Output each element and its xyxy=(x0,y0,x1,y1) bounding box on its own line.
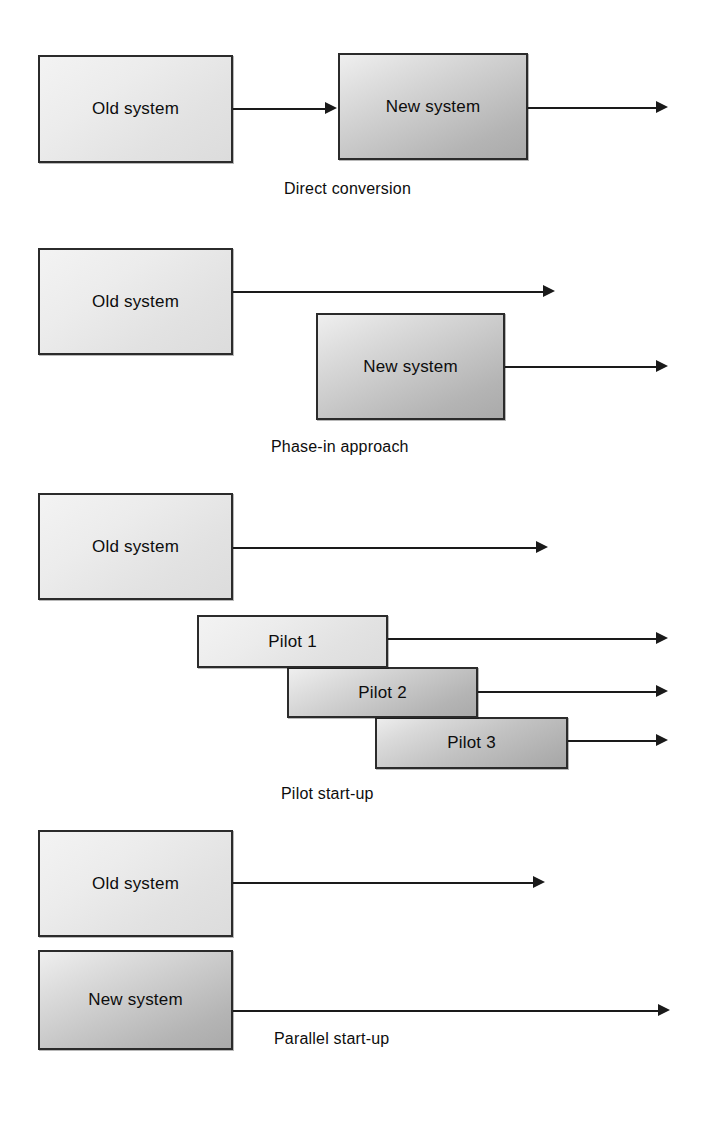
box-label: Pilot 3 xyxy=(447,733,496,753)
box-label: Old system xyxy=(92,292,179,312)
box-label: Pilot 1 xyxy=(268,632,317,652)
box-old-system-phasein: Old system xyxy=(38,248,233,355)
box-pilot-1: Pilot 1 xyxy=(197,615,388,668)
arrow-line-old-forward-parallel xyxy=(233,882,533,884)
arrow-head-new-forward-parallel xyxy=(658,1004,670,1016)
arrow-head-pilot-1 xyxy=(656,632,668,644)
caption-pilot-start-up: Pilot start-up xyxy=(281,785,374,803)
box-pilot-3: Pilot 3 xyxy=(375,717,568,769)
box-label: New system xyxy=(363,357,458,377)
arrow-head-old-forward-pilot xyxy=(536,541,548,553)
box-new-system-phasein: New system xyxy=(316,313,505,420)
box-new-system-parallel: New system xyxy=(38,950,233,1050)
arrow-line-old-forward-pilot xyxy=(233,547,536,549)
arrow-head-new-forward-phasein xyxy=(656,360,668,372)
box-label: New system xyxy=(88,990,183,1010)
box-old-system-pilot: Old system xyxy=(38,493,233,600)
caption-parallel-start-up: Parallel start-up xyxy=(274,1030,389,1048)
box-label: Old system xyxy=(92,537,179,557)
arrow-line-pilot-1 xyxy=(388,638,656,640)
box-label: Pilot 2 xyxy=(358,683,407,703)
box-label: New system xyxy=(386,97,481,117)
arrow-head-old-forward-phasein xyxy=(543,285,555,297)
caption-direct-conversion: Direct conversion xyxy=(284,180,411,198)
arrow-head-pilot-3 xyxy=(656,734,668,746)
box-pilot-2: Pilot 2 xyxy=(287,667,478,718)
arrow-line-new-forward xyxy=(528,107,656,109)
box-old-system-direct: Old system xyxy=(38,55,233,163)
arrow-line-pilot-2 xyxy=(478,691,656,693)
box-old-system-parallel: Old system xyxy=(38,830,233,937)
arrow-line-old-to-new xyxy=(233,108,325,110)
box-new-system-direct: New system xyxy=(338,53,528,160)
box-label: Old system xyxy=(92,99,179,119)
arrow-head-old-to-new xyxy=(325,102,337,114)
arrow-line-new-forward-parallel xyxy=(233,1010,658,1012)
arrow-line-pilot-3 xyxy=(568,740,656,742)
box-label: Old system xyxy=(92,874,179,894)
caption-phase-in-approach: Phase-in approach xyxy=(271,438,409,456)
arrow-line-old-forward-phasein xyxy=(233,291,543,293)
arrow-head-old-forward-parallel xyxy=(533,876,545,888)
arrow-line-new-forward-phasein xyxy=(505,366,656,368)
arrow-head-new-forward xyxy=(656,101,668,113)
diagram-canvas: Old system New system Direct conversion … xyxy=(0,0,713,1126)
arrow-head-pilot-2 xyxy=(656,685,668,697)
